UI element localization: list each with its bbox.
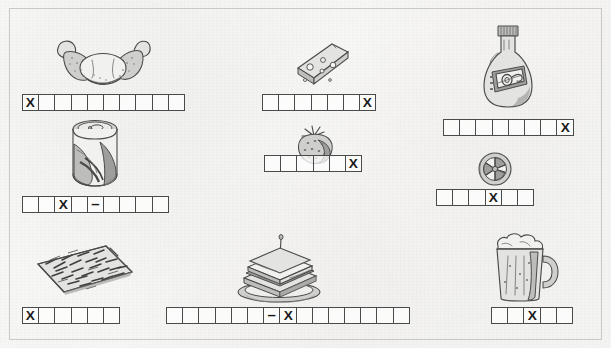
answer-cell[interactable] xyxy=(22,196,39,213)
answer-cell[interactable] xyxy=(459,119,476,136)
answer-cell[interactable] xyxy=(87,307,104,324)
answer-row-sandwich[interactable]: –X xyxy=(166,307,409,324)
answer-cell[interactable] xyxy=(313,155,330,172)
answer-cell[interactable]: X xyxy=(556,119,573,136)
answer-cell[interactable] xyxy=(376,307,393,324)
answer-row-bottle[interactable]: X xyxy=(443,119,573,136)
answer-cell[interactable] xyxy=(443,119,460,136)
answer-cell[interactable] xyxy=(311,94,328,111)
answer-cell[interactable] xyxy=(215,307,232,324)
answer-cell[interactable] xyxy=(556,307,573,324)
answer-cell[interactable] xyxy=(119,94,136,111)
worksheet-page: X X X X– X X X –X X xyxy=(0,0,611,348)
answer-cell[interactable] xyxy=(71,94,88,111)
answer-cell[interactable] xyxy=(247,307,264,324)
answer-row-strawberry[interactable]: X xyxy=(264,155,361,172)
answer-cell[interactable] xyxy=(360,307,377,324)
answer-cell[interactable] xyxy=(152,196,169,213)
answer-cell[interactable] xyxy=(501,189,518,206)
cross-mark: X xyxy=(489,191,498,204)
cheese-wedge-illustration xyxy=(292,38,354,86)
answer-cell[interactable] xyxy=(262,94,279,111)
answer-cell[interactable] xyxy=(71,196,88,213)
answer-cell[interactable] xyxy=(87,94,104,111)
answer-cell[interactable] xyxy=(280,155,297,172)
answer-cell[interactable] xyxy=(540,307,557,324)
answer-row-croissant[interactable]: X xyxy=(22,94,184,111)
answer-cell[interactable]: – xyxy=(263,307,280,324)
croissant-illustration xyxy=(48,28,156,90)
answer-cell[interactable] xyxy=(294,94,311,111)
answer-cell[interactable] xyxy=(343,94,360,111)
answer-row-cola-can[interactable]: X– xyxy=(22,196,168,213)
answer-cell[interactable] xyxy=(327,94,344,111)
answer-cell[interactable] xyxy=(508,119,525,136)
club-sandwich-illustration xyxy=(224,232,334,304)
answer-cell[interactable] xyxy=(168,94,185,111)
answer-cell[interactable] xyxy=(312,307,329,324)
answer-cell[interactable] xyxy=(475,119,492,136)
answer-cell[interactable]: X xyxy=(22,307,39,324)
cola-can-illustration xyxy=(66,118,124,192)
swirl-candy-illustration xyxy=(472,148,518,190)
cross-mark: X xyxy=(349,157,358,170)
answer-cell[interactable] xyxy=(492,119,509,136)
answer-cell[interactable] xyxy=(71,307,88,324)
answer-cell[interactable] xyxy=(491,307,508,324)
cross-mark: X xyxy=(26,96,35,109)
answer-cell[interactable] xyxy=(38,307,55,324)
answer-row-fries[interactable]: X xyxy=(22,307,119,324)
answer-cell[interactable] xyxy=(524,119,541,136)
answer-cell[interactable] xyxy=(344,307,361,324)
answer-cell[interactable] xyxy=(182,307,199,324)
dash-mark: – xyxy=(268,307,276,322)
answer-cell[interactable] xyxy=(103,94,120,111)
answer-cell[interactable] xyxy=(166,307,183,324)
answer-cell[interactable] xyxy=(135,196,152,213)
answer-cell[interactable] xyxy=(38,94,55,111)
answer-cell[interactable]: X xyxy=(485,189,502,206)
answer-cell[interactable] xyxy=(452,189,469,206)
beer-mug-illustration xyxy=(486,230,562,304)
cross-mark: X xyxy=(26,309,35,322)
answer-cell[interactable] xyxy=(119,196,136,213)
answer-cell[interactable] xyxy=(517,189,534,206)
answer-row-cheese[interactable]: X xyxy=(262,94,375,111)
answer-cell[interactable]: X xyxy=(523,307,540,324)
answer-cell[interactable]: X xyxy=(279,307,296,324)
answer-cell[interactable] xyxy=(103,307,120,324)
answer-cell[interactable] xyxy=(468,189,485,206)
answer-cell[interactable]: X xyxy=(22,94,39,111)
answer-cell[interactable] xyxy=(296,155,313,172)
answer-cell[interactable]: X xyxy=(359,94,376,111)
answer-cell[interactable] xyxy=(329,155,346,172)
answer-cell[interactable] xyxy=(54,307,71,324)
answer-cell[interactable]: – xyxy=(87,196,104,213)
dash-mark: – xyxy=(91,196,99,211)
answer-cell[interactable] xyxy=(540,119,557,136)
cross-mark: X xyxy=(560,121,569,134)
cross-mark: X xyxy=(527,309,536,322)
answer-cell[interactable]: X xyxy=(345,155,362,172)
answer-cell[interactable] xyxy=(436,189,453,206)
answer-cell[interactable] xyxy=(198,307,215,324)
sauce-bottle-illustration xyxy=(478,22,538,112)
answer-cell[interactable] xyxy=(54,94,71,111)
answer-cell[interactable] xyxy=(278,94,295,111)
answer-cell[interactable] xyxy=(38,196,55,213)
cross-mark: X xyxy=(58,198,67,211)
answer-row-beer-mug[interactable]: X xyxy=(491,307,572,324)
cross-mark: X xyxy=(363,96,372,109)
answer-cell[interactable] xyxy=(135,94,152,111)
answer-cell[interactable] xyxy=(296,307,313,324)
answer-cell[interactable] xyxy=(507,307,524,324)
answer-row-candy-swirl[interactable]: X xyxy=(436,189,533,206)
answer-cell[interactable] xyxy=(328,307,345,324)
answer-cell[interactable] xyxy=(264,155,281,172)
cross-mark: X xyxy=(283,309,292,322)
answer-cell[interactable] xyxy=(103,196,120,213)
answer-cell[interactable] xyxy=(152,94,169,111)
answer-cell[interactable] xyxy=(231,307,248,324)
answer-cell[interactable] xyxy=(393,307,410,324)
answer-cell[interactable]: X xyxy=(54,196,71,213)
